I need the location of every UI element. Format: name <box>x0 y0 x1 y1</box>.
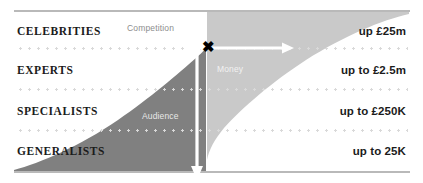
arrow-overlay <box>0 0 423 183</box>
audience-axis-arrow-icon <box>191 48 203 180</box>
crossover-marker-icon: ✖ <box>199 38 217 56</box>
funnel-diagram: CELEBRITIES up £25m EXPERTS up to £2.5m … <box>0 0 423 183</box>
